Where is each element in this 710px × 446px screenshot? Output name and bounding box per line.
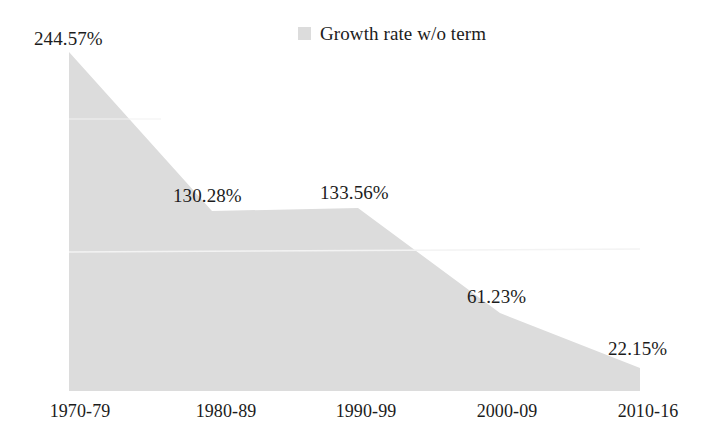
data-label-2000-09: 61.23%	[467, 287, 526, 306]
x-axis-tick-1970-79: 1970-79	[50, 402, 111, 420]
x-axis: 1970-79 1980-89 1990-99 2000-09 2010-16	[0, 402, 710, 428]
x-axis-tick-2000-09: 2000-09	[477, 402, 538, 420]
data-label-1970-79: 244.57%	[34, 29, 103, 48]
chart-legend: Growth rate w/o term	[298, 24, 486, 43]
x-axis-tick-1980-89: 1980-89	[196, 402, 257, 420]
chart-screenshot: Growth rate w/o term 244.57% 130.28% 133…	[0, 0, 710, 446]
data-label-1980-89: 130.28%	[173, 186, 242, 205]
data-label-2010-16: 22.15%	[608, 339, 667, 358]
area-series-growth-rate	[69, 52, 640, 391]
data-label-1990-99: 133.56%	[320, 183, 389, 202]
x-axis-tick-1990-99: 1990-99	[336, 402, 397, 420]
area-chart-plot	[0, 0, 710, 446]
x-axis-tick-2010-16: 2010-16	[618, 402, 679, 420]
legend-square-icon	[298, 27, 311, 40]
legend-item-label: Growth rate w/o term	[320, 24, 486, 43]
